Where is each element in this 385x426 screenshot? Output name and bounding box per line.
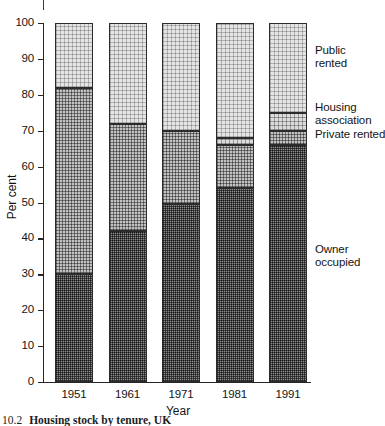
y-tick-label-90: 90 [0,53,34,65]
x-tick-label-1951: 1951 [44,388,104,400]
y-tick-label-10: 10 [0,340,34,352]
bar-1981 [216,23,254,382]
axis-top-artifact [43,0,44,10]
bar-1951 [55,23,93,382]
bar-segment-public-rented-1961 [109,23,147,124]
annotation-public-rented-line2: rented [315,57,347,70]
y-tick-label-80: 80 [0,89,34,101]
plot-area [44,23,311,382]
annotation-housing-association: Housing association [315,101,371,127]
bar-segment-private-rented-1991 [269,131,307,145]
bar-segment-private-rented-1951 [55,88,93,275]
y-tick-label-70: 70 [0,125,34,137]
bar-segment-public-rented-1971 [162,23,200,131]
x-tick-label-1981: 1981 [205,388,265,400]
y-tick-label-100: 100 [0,17,34,29]
annotation-owner-occupied: Owner occupied [315,243,360,269]
y-tick-label-20: 20 [0,304,34,316]
y-tick-label-0: 0 [0,376,34,388]
bar-segment-private-rented-1961 [109,124,147,232]
bar-segment-owner-occupied-1981 [216,188,254,382]
bar-1991 [269,23,307,382]
bar-segment-public-rented-1981 [216,23,254,138]
annotation-private-rented: Private rented [315,128,385,141]
annotation-private-rented-line1: Private rented [315,128,385,141]
bar-segment-housing-association-1981 [216,138,254,145]
annotation-housing-association-line1: Housing [315,101,371,114]
bar-segment-private-rented-1981 [216,145,254,188]
bar-segment-public-rented-1991 [269,23,307,113]
annotation-public-rented: Public rented [315,44,347,70]
figure-caption-text: Housing stock by tenure, UK [29,414,171,426]
figure-caption-number: 10.2 [2,414,22,426]
x-tick-label-1961: 1961 [98,388,158,400]
annotation-public-rented-line1: Public [315,44,347,57]
bar-segment-owner-occupied-1991 [269,145,307,382]
x-tick-label-1971: 1971 [151,388,211,400]
bar-segment-owner-occupied-1971 [162,204,200,382]
y-tick-mark-0 [38,382,44,383]
bar-segment-private-rented-1971 [162,131,200,205]
annotation-owner-occupied-line1: Owner [315,243,360,256]
y-axis-title: Per cent [5,152,19,242]
bar-segment-owner-occupied-1961 [109,231,147,382]
bar-segment-owner-occupied-1951 [55,274,93,382]
bar-segment-public-rented-1951 [55,23,93,88]
figure-caption: 10.2Housing stock by tenure, UK [2,414,171,426]
bar-segment-housing-association-1991 [269,113,307,131]
x-axis-line [43,382,311,383]
bar-1971 [162,23,200,382]
x-tick-label-1991: 1991 [258,388,318,400]
annotation-housing-association-line2: association [315,114,371,127]
bar-1961 [109,23,147,382]
y-tick-label-30: 30 [0,268,34,280]
annotation-owner-occupied-line2: occupied [315,256,360,269]
